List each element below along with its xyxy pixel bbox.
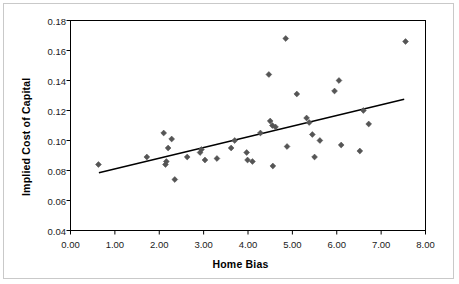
scatter-plot-figure: Implied Cost of Capital Home Bias 0.040.… (0, 0, 459, 284)
data-point (309, 132, 315, 138)
data-point (244, 150, 250, 156)
data-point (169, 136, 175, 142)
y-tick-label: 0.18 (32, 15, 66, 26)
data-point (366, 121, 372, 127)
data-point (312, 154, 318, 160)
y-tick-label: 0.12 (32, 105, 66, 116)
y-tick-label: 0.10 (32, 135, 66, 146)
data-point (317, 138, 323, 144)
data-point (144, 154, 150, 160)
data-point (202, 157, 208, 163)
data-point (228, 145, 234, 151)
x-tick-label: 2.00 (150, 239, 169, 250)
data-point (294, 91, 300, 97)
data-point (184, 154, 190, 160)
data-point (336, 78, 342, 84)
y-tick-label: 0.14 (32, 75, 66, 86)
data-point (357, 148, 363, 154)
data-point (403, 39, 409, 45)
data-point (214, 156, 220, 162)
x-tick-label: 3.00 (194, 239, 213, 250)
data-point (332, 88, 338, 94)
data-point (172, 177, 178, 183)
data-point (232, 138, 238, 144)
data-point (338, 142, 344, 148)
x-tick-label: 0.00 (61, 239, 80, 250)
data-point (284, 144, 290, 150)
tick-marks (67, 21, 426, 235)
plot-frame (71, 21, 426, 231)
data-point (245, 157, 251, 163)
x-tick-label: 1.00 (106, 239, 125, 250)
y-tick-label: 0.08 (32, 165, 66, 176)
x-tick-label: 8.00 (416, 239, 435, 250)
x-tick-label: 6.00 (328, 239, 347, 250)
data-point (270, 163, 276, 169)
data-point (161, 130, 167, 136)
y-tick-label: 0.04 (32, 225, 66, 236)
x-tick-label: 7.00 (372, 239, 391, 250)
x-tick-label: 5.00 (283, 239, 302, 250)
y-tick-label: 0.06 (32, 195, 66, 206)
data-point (96, 162, 102, 168)
data-point (283, 36, 289, 42)
data-point (266, 72, 272, 78)
data-point (250, 159, 256, 165)
data-point (165, 145, 171, 151)
y-tick-label: 0.16 (32, 45, 66, 56)
x-tick-label: 4.00 (239, 239, 258, 250)
